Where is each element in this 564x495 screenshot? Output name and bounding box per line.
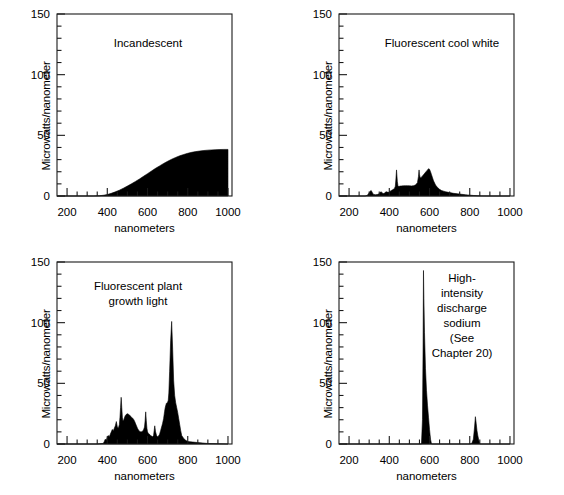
panel-fluorescent-cool-white: Microwatts/nanometer nanometers 20040060… [282, 0, 564, 247]
x-tick-label: 200 [57, 454, 76, 466]
x-tick-label: 400 [380, 454, 399, 466]
x-tick-label: 800 [460, 454, 479, 466]
y-tick-label: 100 [313, 69, 332, 81]
spectrum-curve [57, 321, 228, 444]
plot-area-incandescent: 2004006008001000050100150Incandescent [0, 0, 282, 247]
x-tick-label: 200 [339, 454, 358, 466]
x-tick-label: 200 [57, 206, 76, 218]
spectrum-curve [57, 149, 228, 196]
y-tick-label: 0 [326, 190, 332, 202]
panel-high-intensity-discharge-sodium: Microwatts/nanometer nanometers 20040060… [282, 248, 564, 495]
x-tick-label: 600 [138, 454, 157, 466]
spectrum-curve [339, 169, 510, 196]
panel-title: Incandescent [114, 37, 183, 49]
panel-title: Fluorescent plantgrowth light [94, 280, 183, 307]
y-tick-label: 0 [326, 438, 332, 450]
y-tick-label: 0 [44, 438, 50, 450]
panel-title: Fluorescent cool white [385, 37, 499, 49]
x-tick-label: 800 [178, 206, 197, 218]
panel-incandescent: Microwatts/nanometer nanometers 20040060… [0, 0, 282, 247]
x-tick-label: 1000 [497, 454, 523, 466]
y-tick-label: 150 [313, 256, 332, 268]
y-tick-label: 50 [37, 377, 50, 389]
plot-area-high-intensity-discharge-sodium: 2004006008001000050100150High-intensityd… [282, 248, 564, 495]
x-tick-label: 1000 [215, 454, 241, 466]
x-tick-label: 400 [98, 454, 117, 466]
x-tick-label: 600 [420, 454, 439, 466]
plot-area-fluorescent-plant-growth-light: 2004006008001000050100150Fluorescent pla… [0, 248, 282, 495]
y-tick-label: 50 [37, 129, 50, 141]
x-tick-label: 600 [138, 206, 157, 218]
y-tick-label: 150 [31, 8, 50, 20]
x-tick-label: 800 [460, 206, 479, 218]
x-tick-label: 1000 [497, 206, 523, 218]
y-tick-label: 150 [313, 8, 332, 20]
plot-area-fluorescent-cool-white: 2004006008001000050100150Fluorescent coo… [282, 0, 564, 247]
x-tick-label: 600 [420, 206, 439, 218]
y-tick-label: 100 [31, 69, 50, 81]
y-tick-label: 150 [31, 256, 50, 268]
y-tick-label: 0 [44, 190, 50, 202]
y-tick-label: 100 [31, 317, 50, 329]
panel-fluorescent-plant-growth-light: Microwatts/nanometer nanometers 20040060… [0, 248, 282, 495]
spectral-distribution-figure: Microwatts/nanometer nanometers 20040060… [0, 0, 564, 495]
x-tick-label: 400 [380, 206, 399, 218]
y-tick-label: 50 [319, 129, 332, 141]
x-tick-label: 800 [178, 454, 197, 466]
panel-title: High-intensitydischargesodium(SeeChapter… [432, 272, 493, 359]
x-tick-label: 1000 [215, 206, 241, 218]
x-tick-label: 400 [98, 206, 117, 218]
y-tick-label: 100 [313, 317, 332, 329]
y-tick-label: 50 [319, 377, 332, 389]
x-tick-label: 200 [339, 206, 358, 218]
